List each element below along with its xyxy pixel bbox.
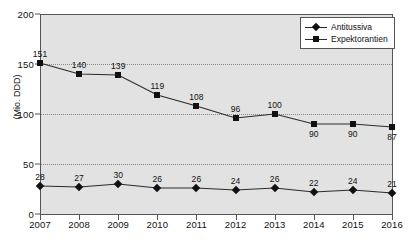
data-point-marker-expektorantien [76,71,82,77]
data-point-label-expektorantien: 90 [309,129,319,139]
data-point-label-expektorantien: 87 [387,132,397,142]
data-point-marker-expektorantien [115,72,121,78]
series-line-expektorantien [40,63,392,127]
data-point-label-antitussiva: 27 [74,173,84,183]
data-point-marker-expektorantien [311,121,317,127]
legend-item-antitussiva: Antitussiva [305,21,388,33]
data-point-label-antitussiva: 26 [270,174,280,184]
data-point-label-antitussiva: 21 [387,179,397,189]
data-point-label-expektorantien: 100 [267,100,281,110]
series-line-antitussiva [40,184,392,193]
data-point-label-expektorantien: 96 [231,104,241,114]
legend-item-expektorantien: Expektorantien [305,33,388,45]
data-point-label-antitussiva: 24 [231,176,241,186]
data-point-label-expektorantien: 108 [189,92,203,102]
data-point-label-antitussiva: 26 [153,174,163,184]
line-chart: 050100150200 (Mio. DDD) 2007200820092010… [0,0,418,247]
data-point-label-expektorantien: 140 [72,60,86,70]
data-point-label-antitussiva: 26 [192,174,202,184]
data-point-label-antitussiva: 30 [113,170,123,180]
data-point-marker-expektorantien [193,103,199,109]
data-point-marker-expektorantien [350,121,356,127]
data-point-marker-expektorantien [154,92,160,98]
data-point-label-expektorantien: 139 [111,61,125,71]
data-point-marker-expektorantien [272,111,278,117]
data-point-label-antitussiva: 22 [309,178,319,188]
data-point-label-expektorantien: 119 [150,81,164,91]
legend-marker-square-icon [305,34,327,44]
legend: Antitussiva Expektorantien [300,17,395,49]
data-point-marker-expektorantien [233,115,239,121]
legend-label: Expektorantien [331,34,388,44]
data-point-label-expektorantien: 90 [348,129,358,139]
data-point-marker-expektorantien [389,124,395,130]
data-point-marker-expektorantien [37,60,43,66]
data-point-label-antitussiva: 24 [348,176,358,186]
data-point-label-expektorantien: 151 [33,49,47,59]
legend-marker-diamond-icon [305,22,327,32]
data-point-label-antitussiva: 28 [35,172,45,182]
legend-label: Antitussiva [331,22,372,32]
